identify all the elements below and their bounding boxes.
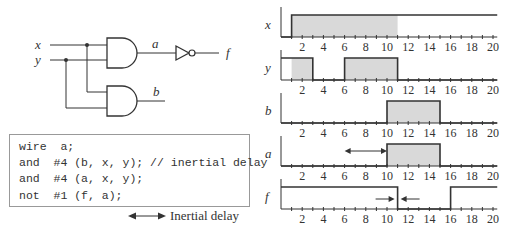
- tick-label: 2: [299, 83, 305, 97]
- tick-label: 8: [363, 169, 369, 183]
- tick-label: 20: [487, 212, 499, 226]
- tick-label: 2: [299, 212, 305, 226]
- tick-label: 10: [381, 169, 393, 183]
- wire-x-to-b: [87, 45, 107, 92]
- tick-label: 20: [487, 169, 499, 183]
- shaded-region: [292, 58, 313, 80]
- code-line: not #1 (f, a);: [19, 188, 249, 204]
- tick-label: 8: [363, 40, 369, 54]
- tick-label: 4: [320, 126, 326, 140]
- tick-label: 4: [320, 40, 326, 54]
- signal-label-x: x: [264, 17, 271, 32]
- code-line: wire a;: [19, 139, 249, 155]
- legend-label: Inertial delay: [170, 208, 239, 224]
- tick-label: 12: [402, 126, 414, 140]
- input-label-x: x: [34, 37, 41, 52]
- tick-label: 4: [320, 169, 326, 183]
- tick-label: 8: [363, 212, 369, 226]
- tick-label: 14: [423, 40, 435, 54]
- shaded-region: [387, 101, 440, 123]
- and-gate-b: [107, 86, 137, 116]
- tick-label: 16: [445, 40, 457, 54]
- arrowhead: [345, 148, 351, 154]
- tick-label: 18: [466, 212, 478, 226]
- signal-label-b: b: [265, 103, 272, 118]
- tick-label: 20: [487, 40, 499, 54]
- tick-label: 8: [363, 83, 369, 97]
- not-bubble: [189, 50, 195, 56]
- tick-label: 14: [423, 126, 435, 140]
- shaded-region: [345, 58, 398, 80]
- output-label-a: a: [152, 36, 159, 51]
- not-gate: [176, 46, 189, 60]
- output-label-b: b: [153, 84, 160, 99]
- tick-label: 6: [342, 169, 348, 183]
- tick-label: 10: [381, 126, 393, 140]
- tick-label: 10: [381, 40, 393, 54]
- double-arrow-icon: [128, 211, 166, 221]
- shaded-region: [292, 15, 398, 37]
- verilog-code-box: wire a;and #4 (b, x, y); // inertial del…: [9, 134, 250, 207]
- arrowhead: [389, 196, 395, 202]
- tick-label: 12: [402, 212, 414, 226]
- code-line: and #4 (b, x, y); // inertial delay: [19, 155, 249, 171]
- code-line: and #4 (a, x, y);: [19, 171, 249, 187]
- tick-label: 12: [402, 40, 414, 54]
- input-label-y: y: [33, 52, 41, 67]
- tick-label: 6: [342, 40, 348, 54]
- tick-label: 10: [381, 83, 393, 97]
- tick-label: 2: [299, 169, 305, 183]
- output-label-f: f: [226, 45, 232, 60]
- tick-label: 14: [423, 169, 435, 183]
- tick-label: 16: [445, 126, 457, 140]
- tick-label: 16: [445, 169, 457, 183]
- tick-label: 14: [423, 212, 435, 226]
- tick-label: 12: [402, 83, 414, 97]
- and-gate-a: [107, 38, 137, 68]
- tick-label: 6: [342, 83, 348, 97]
- signal-label-y: y: [263, 60, 271, 75]
- tick-label: 18: [466, 40, 478, 54]
- tick-label: 12: [402, 169, 414, 183]
- tick-label: 18: [466, 83, 478, 97]
- tick-label: 2: [299, 126, 305, 140]
- tick-label: 14: [423, 83, 435, 97]
- tick-label: 2: [299, 40, 305, 54]
- tick-label: 18: [466, 169, 478, 183]
- tick-label: 18: [466, 126, 478, 140]
- tick-label: 6: [342, 212, 348, 226]
- tick-label: 20: [487, 83, 499, 97]
- tick-label: 6: [342, 126, 348, 140]
- tick-label: 16: [445, 83, 457, 97]
- tick-label: 4: [320, 83, 326, 97]
- tick-label: 10: [381, 212, 393, 226]
- signal-label-f: f: [265, 189, 271, 204]
- tick-label: 4: [320, 212, 326, 226]
- legend: Inertial delay: [128, 208, 239, 224]
- tick-label: 16: [445, 212, 457, 226]
- tick-label: 20: [487, 126, 499, 140]
- arrowhead: [401, 196, 407, 202]
- tick-label: 8: [363, 126, 369, 140]
- shaded-region: [387, 144, 440, 166]
- arrowhead: [381, 148, 387, 154]
